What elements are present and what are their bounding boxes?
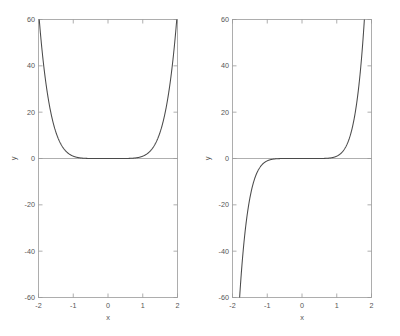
y-ticklabel-right-40: 40 xyxy=(221,61,229,70)
y-ticklabel-right-0: 0 xyxy=(225,154,229,163)
x-ticklabel-left-neg1: -1 xyxy=(70,301,76,310)
x-ticklabel-right-2: 2 xyxy=(370,301,374,310)
x-ticklabel-left-neg2: -2 xyxy=(35,301,41,310)
x-ticklabel-left-2: 2 xyxy=(176,301,180,310)
y-ticklabel-left-neg40: -40 xyxy=(25,247,35,256)
x-axis-title-left: x xyxy=(106,313,110,322)
y-ticklabel-right-neg20: -20 xyxy=(219,200,229,209)
curve-right xyxy=(238,0,367,330)
y-ticklabel-right-20: 20 xyxy=(221,108,229,117)
y-ticklabel-left-60: 60 xyxy=(27,15,35,24)
plot-svg-right: 60 40 20 0 -20 -40 -60 -2 -1 0 1 2 x y xyxy=(200,0,400,336)
y-axis-title-left: y xyxy=(9,156,18,160)
y-ticklabel-left-20: 20 xyxy=(27,108,35,117)
x-axis-title-right: x xyxy=(300,313,304,322)
x-ticklabel-right-1: 1 xyxy=(335,301,339,310)
y-ticklabel-left-neg60: -60 xyxy=(25,293,35,302)
figure-canvas: 60 40 20 0 -20 -40 -60 -2 -1 0 1 2 x y xyxy=(0,0,400,336)
y-ticklabel-right-neg60: -60 xyxy=(219,293,229,302)
x-ticklabel-left-1: 1 xyxy=(141,301,145,310)
x-ticklabel-left-0: 0 xyxy=(106,301,110,310)
y-ticklabel-left-40: 40 xyxy=(27,61,35,70)
plot-panel-right: 60 40 20 0 -20 -40 -60 -2 -1 0 1 2 x y xyxy=(200,0,400,336)
x-ticklabel-right-neg2: -2 xyxy=(229,301,235,310)
x-ticklabel-right-neg1: -1 xyxy=(264,301,270,310)
y-ticklabel-left-0: 0 xyxy=(31,154,35,163)
plot-svg-left: 60 40 20 0 -20 -40 -60 -2 -1 0 1 2 x y xyxy=(0,0,200,336)
curve-left xyxy=(39,10,178,158)
y-ticklabel-right-60: 60 xyxy=(221,15,229,24)
y-ticklabel-left-neg20: -20 xyxy=(25,200,35,209)
y-axis-title-right: y xyxy=(203,156,212,160)
x-ticklabel-right-0: 0 xyxy=(300,301,304,310)
plot-panel-left: 60 40 20 0 -20 -40 -60 -2 -1 0 1 2 x y xyxy=(0,0,200,336)
y-ticklabel-right-neg40: -40 xyxy=(219,247,229,256)
